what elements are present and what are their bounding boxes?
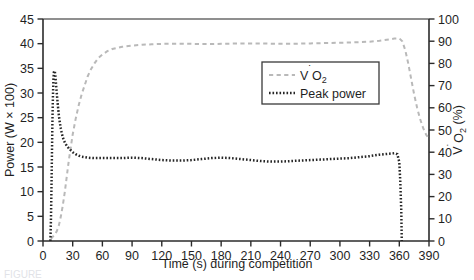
figure-caption-clipped: FIGURE: [4, 269, 42, 280]
vo2-power-chart: 0306090120150180210240270300330360390 05…: [0, 0, 474, 280]
y-left-tick-label: 10: [20, 185, 34, 199]
y-left-tick-label: 40: [20, 37, 34, 51]
y-right-tick-label: 70: [438, 79, 452, 93]
legend-label-peak-power: Peak power: [300, 87, 366, 101]
y-right-tick-label: 80: [438, 57, 452, 71]
y-left-tick-label: 30: [20, 87, 34, 101]
y-right-tick-label: 100: [438, 13, 459, 27]
x-tick-label: 330: [359, 249, 380, 263]
y-axis-left-title: Power (W × 100): [3, 83, 17, 177]
y-left-tick-label: 5: [27, 210, 34, 224]
y-left-tick-label: 15: [20, 161, 34, 175]
y-left-tick-label: 45: [20, 13, 34, 27]
x-tick-label: 360: [389, 249, 410, 263]
x-tick-label: 300: [329, 249, 350, 263]
y-left-tick-label: 35: [20, 62, 34, 76]
y-left-tick-label: 0: [27, 235, 34, 249]
svg-text:Time (s) during competition: Time (s) during competition: [162, 257, 313, 271]
svg-text:Power (W × 100): Power (W × 100): [3, 83, 17, 177]
y-right-tick-label: 30: [438, 168, 452, 182]
y-right-tick-label: 40: [438, 146, 452, 160]
x-tick-label: 0: [40, 249, 47, 263]
y-right-tick-label: 90: [438, 35, 452, 49]
figure-container: 0306090120150180210240270300330360390 05…: [0, 0, 474, 280]
y-right-tick-label: 10: [438, 212, 452, 226]
x-tick-label: 90: [125, 249, 139, 263]
y-right-tick-label: 0: [438, 235, 445, 249]
y-right-tick-label: 20: [438, 190, 452, 204]
x-tick-label: 390: [419, 249, 440, 263]
y-left-tick-label: 25: [20, 111, 34, 125]
x-tick-label: 30: [66, 249, 80, 263]
y-right-tick-label: 50: [438, 124, 452, 138]
y-right-tick-label: 60: [438, 101, 452, 115]
x-axis-title: Time (s) during competition: [162, 257, 313, 271]
chart-legend: V˙O2Peak power: [262, 62, 379, 104]
y-left-tick-label: 20: [20, 136, 34, 150]
x-tick-label: 60: [95, 249, 109, 263]
